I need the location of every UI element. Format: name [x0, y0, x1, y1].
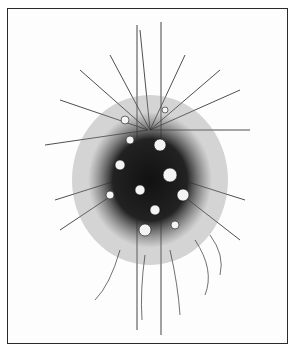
floral-arrangement-illustration [0, 0, 297, 350]
